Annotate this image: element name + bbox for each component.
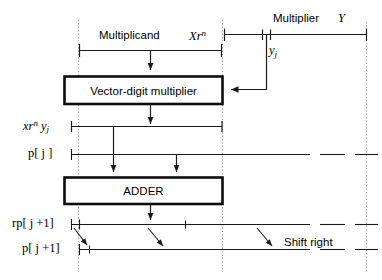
yj-select-path — [231, 35, 267, 90]
rpj1-line — [71, 219, 378, 230]
partial-product-label: xrn yj — [23, 119, 49, 134]
shift-right-label: Shift right — [284, 237, 333, 249]
pj-label: p[ j ] — [28, 147, 52, 160]
shift-right-arrow-1 — [74, 228, 87, 245]
pj1-label: p[ j +1] — [22, 242, 60, 255]
pj-line — [71, 149, 378, 160]
multiplier-bus — [224, 29, 367, 42]
adder-label: ADDER — [64, 177, 223, 205]
multiplier-value-label: Y — [338, 12, 345, 25]
shift-right-arrow-3 — [257, 228, 272, 246]
vector-digit-multiplier-label: Vector-digit multiplier — [64, 76, 223, 105]
rpj1-label: rp[ j +1] — [12, 217, 54, 230]
pj1-line — [79, 244, 378, 255]
figure-canvas: Multiplicand Xrn Multiplier Y yj xrn yj … — [0, 0, 382, 280]
time-boundary-guides — [79, 20, 367, 272]
shift-right-arrow-2 — [148, 228, 163, 246]
partial-product-line — [71, 121, 222, 132]
multiplicand-value-label: Xrn — [189, 29, 206, 42]
shift-right-arrows — [74, 228, 272, 246]
multiplicand-label: Multiplicand — [99, 30, 160, 42]
multiplier-label: Multiplier — [273, 13, 319, 25]
yj-label: yj — [269, 44, 277, 59]
